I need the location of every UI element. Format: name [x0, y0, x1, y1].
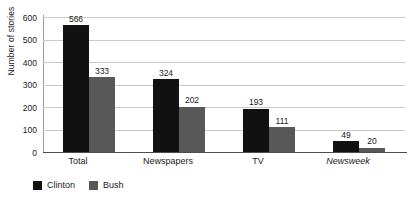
x-axis-line [43, 152, 407, 153]
bar-value-newspapers-clinton: 324 [148, 69, 184, 78]
y-tick-label-100: 100 [7, 126, 37, 135]
bar-value-total-bush: 333 [84, 67, 120, 76]
x-axis-label-newsweek: Newsweek [313, 156, 383, 167]
plot-area: 566 333 324 202 193 111 49 20 [43, 17, 405, 152]
y-tick-label-0: 0 [7, 149, 37, 158]
bar-value-tv-clinton: 193 [238, 98, 274, 107]
y-tick-label-600: 600 [7, 14, 37, 23]
bar-group-newspapers: 324 202 [153, 17, 223, 152]
x-axis-label-total: Total [43, 156, 113, 167]
bar-chart: Number of stories 600 500 400 300 200 10… [0, 0, 413, 198]
bar-tv-bush[interactable] [269, 127, 295, 152]
legend-swatch-bush-icon [89, 181, 98, 190]
bar-tv-clinton[interactable] [243, 109, 269, 152]
chart-legend: Clinton Bush [33, 180, 124, 190]
x-axis-label-tv: TV [223, 156, 293, 167]
bar-value-newsweek-bush: 20 [354, 137, 390, 146]
y-tick-label-400: 400 [7, 59, 37, 68]
bar-value-total-clinton: 566 [58, 15, 94, 24]
legend-item-bush[interactable]: Bush [89, 180, 124, 190]
bar-newspapers-bush[interactable] [179, 107, 205, 153]
legend-item-clinton[interactable]: Clinton [33, 180, 75, 190]
bar-group-tv: 193 111 [243, 17, 313, 152]
y-tick-label-500: 500 [7, 36, 37, 45]
y-tick-label-300: 300 [7, 81, 37, 90]
bar-newspapers-clinton[interactable] [153, 79, 179, 152]
bar-group-newsweek: 49 20 [333, 17, 403, 152]
bar-total-clinton[interactable] [63, 25, 89, 152]
legend-swatch-clinton-icon [33, 181, 42, 190]
legend-label-clinton: Clinton [47, 180, 75, 190]
bar-value-newspapers-bush: 202 [174, 96, 210, 105]
bar-newsweek-bush[interactable] [359, 148, 385, 153]
y-tick-label-200: 200 [7, 104, 37, 113]
x-axis-label-newspapers: Newspapers [133, 156, 203, 167]
bar-total-bush[interactable] [89, 77, 115, 152]
bar-group-total: 566 333 [63, 17, 133, 152]
bar-value-tv-bush: 111 [264, 117, 300, 126]
legend-label-bush: Bush [103, 180, 124, 190]
